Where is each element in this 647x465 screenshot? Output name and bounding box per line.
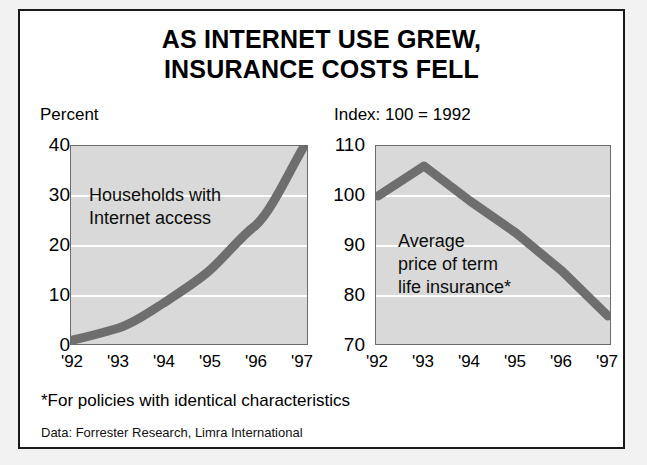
right-ytick-100: 100 [325,184,365,206]
right-annotation-line-3: life insurance* [398,276,511,299]
left-ytick-20: 20 [30,234,70,256]
figure-canvas: AS INTERNET USE GREW, INSURANCE COSTS FE… [0,0,647,465]
chart-frame: AS INTERNET USE GREW, INSURANCE COSTS FE… [18,9,625,449]
right-xtick-93: '93 [402,352,444,372]
chart-panel-internet: Percent 40 30 20 10 0 Households with In… [20,11,320,371]
left-ytick-10: 10 [30,284,70,306]
left-xtick-96: '96 [235,352,277,372]
right-annotation-line-2: price of term [398,253,511,276]
right-xtick-96: '96 [540,352,582,372]
right-ytick-110: 110 [325,134,365,156]
right-plot-area: Average price of term life insurance* [375,145,611,345]
left-plot-area: Households with Internet access [70,145,308,345]
left-xtick-94: '94 [143,352,185,372]
left-xtick-95: '95 [189,352,231,372]
right-annotation-line-1: Average [398,230,511,253]
left-annotation-line-2: Internet access [89,207,221,230]
footnote-text: *For policies with identical characteris… [41,391,350,411]
right-xtick-92: '92 [356,352,398,372]
left-ytick-30: 30 [30,184,70,206]
left-xtick-93: '93 [97,352,139,372]
right-xtick-97: '97 [586,352,628,372]
left-plot-annotation: Households with Internet access [89,184,221,230]
right-plot-annotation: Average price of term life insurance* [398,230,511,299]
right-xtick-94: '94 [448,352,490,372]
left-xtick-92: '92 [51,352,93,372]
right-xtick-95: '95 [494,352,536,372]
left-xtick-97: '97 [281,352,323,372]
left-chart-ylabel: Percent [40,105,99,125]
chart-panel-insurance: Index: 100 = 1992 110 100 90 80 70 Avera… [320,11,623,371]
left-series-line [71,146,308,345]
source-text: Data: Forrester Research, Limra Internat… [41,425,303,440]
left-ytick-40: 40 [30,134,70,156]
left-annotation-line-1: Households with [89,184,221,207]
right-ytick-80: 80 [325,284,365,306]
right-chart-ylabel: Index: 100 = 1992 [334,105,471,125]
right-ytick-90: 90 [325,234,365,256]
